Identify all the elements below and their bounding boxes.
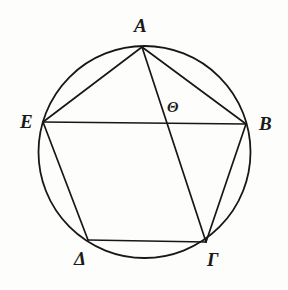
geometry-canvas (0, 0, 288, 290)
segment-A-E (43, 47, 142, 122)
segment-E-B (43, 122, 246, 124)
circumscribed-circle (39, 46, 251, 258)
point-label-Theta: Θ (167, 100, 178, 115)
vertex-label-A: A (134, 16, 147, 35)
vertex-label-Gamma: Γ (207, 250, 218, 269)
geometry-figure: A B Γ Δ E Θ (0, 0, 288, 290)
segment-A-Gamma (142, 47, 206, 242)
vertex-label-E: E (20, 112, 33, 131)
segment-Gamma-B (206, 124, 246, 242)
vertex-label-B: B (259, 114, 272, 133)
segment-Delta-Gamma (88, 240, 206, 242)
vertex-label-Delta: Δ (74, 249, 86, 268)
